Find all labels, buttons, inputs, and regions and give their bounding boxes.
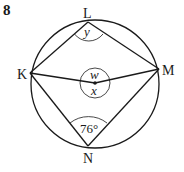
point-label-K: K	[17, 67, 27, 82]
point-label-N: N	[83, 151, 93, 166]
angle-label-y: y	[82, 24, 90, 39]
radius-K	[30, 73, 95, 83]
circle-diagram: L K M N y w x 76°	[0, 0, 184, 172]
angle-label-x: x	[90, 83, 97, 98]
point-label-L: L	[83, 6, 92, 21]
segment-LK	[30, 22, 88, 73]
angle-label-w: w	[90, 67, 99, 82]
segment-LM	[88, 22, 159, 69]
angle-label-76: 76°	[80, 121, 98, 136]
point-label-M: M	[162, 63, 175, 78]
